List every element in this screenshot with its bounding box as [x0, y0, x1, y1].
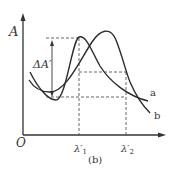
lambda1-label: λ′1: [73, 143, 87, 156]
delta-a-label: ΔA′: [32, 58, 52, 71]
x-axis-arrow-icon: [158, 133, 166, 138]
lambda2-label: λ′2: [120, 143, 134, 156]
delta-a-arrow-up-icon: [50, 40, 54, 46]
origin-label: O: [16, 136, 26, 150]
y-axis-label: A: [8, 24, 18, 39]
y-axis-arrow-icon: [21, 13, 26, 21]
figure-caption: (b): [88, 154, 102, 165]
curve-b-label: b: [154, 110, 160, 121]
absorption-diagram: A O ΔA′ a b λ′1 λ′2 (b): [0, 0, 178, 179]
curve-a-label: a: [150, 87, 156, 98]
